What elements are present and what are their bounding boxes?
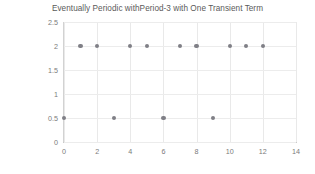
data-point	[62, 116, 66, 120]
data-point	[194, 44, 198, 48]
gridline-horizontal	[64, 22, 296, 23]
gridline-vertical	[197, 22, 198, 142]
y-axis-tick-label: 0	[32, 138, 58, 147]
data-point	[145, 44, 149, 48]
y-axis-tick-labels: 00.511.522.5	[30, 22, 58, 142]
data-point	[128, 44, 132, 48]
x-axis-tick-label: 2	[85, 147, 109, 156]
y-axis-tick-label: 1.5	[32, 66, 58, 75]
x-axis-tick-label: 8	[185, 147, 209, 156]
data-point	[211, 116, 215, 120]
gridline-horizontal	[64, 142, 296, 143]
x-axis-tick-labels: 02468101214	[64, 147, 308, 161]
x-axis-tick-label: 12	[251, 147, 275, 156]
data-point	[178, 44, 182, 48]
x-axis-tick-label: 0	[52, 147, 76, 156]
y-axis-tick-label: 2.5	[32, 18, 58, 27]
gridline-vertical	[230, 22, 231, 142]
data-point	[78, 44, 82, 48]
data-point	[244, 44, 248, 48]
data-point	[112, 116, 116, 120]
y-axis-tick-label: 1	[32, 90, 58, 99]
gridline-vertical	[64, 22, 65, 142]
x-axis-tick-label: 14	[284, 147, 308, 156]
data-point	[261, 44, 265, 48]
data-point	[228, 44, 232, 48]
gridline-vertical	[130, 22, 131, 142]
x-axis-tick-label: 4	[118, 147, 142, 156]
gridline-vertical	[163, 22, 164, 142]
x-axis-tick-label: 6	[151, 147, 175, 156]
gridline-horizontal	[64, 118, 296, 119]
data-point	[161, 116, 165, 120]
gridline-vertical	[97, 22, 98, 142]
data-point	[95, 44, 99, 48]
gridline-horizontal	[64, 94, 296, 95]
chart-container: Eventually Periodic withPeriod-3 with On…	[0, 0, 315, 174]
chart-title: Eventually Periodic withPeriod-3 with On…	[0, 4, 315, 13]
plot-area	[64, 22, 296, 142]
y-axis-tick-label: 0.5	[32, 114, 58, 123]
y-axis-tick-label: 2	[32, 42, 58, 51]
gridline-vertical	[263, 22, 264, 142]
gridline-vertical	[296, 22, 297, 142]
gridline-horizontal	[64, 70, 296, 71]
x-axis-tick-label: 10	[218, 147, 242, 156]
